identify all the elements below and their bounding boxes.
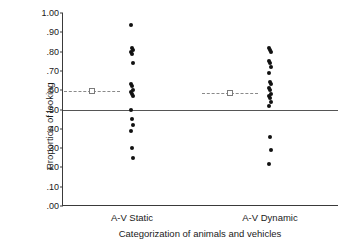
data-point [130, 117, 134, 121]
figure: Proportion of looking 1.00.90.80.70.60.5… [0, 0, 348, 251]
y-tick-label: .60 [46, 86, 59, 95]
data-point [130, 52, 134, 56]
data-point [131, 94, 135, 98]
y-tick-label: .00 [46, 202, 59, 211]
mean-square-icon [89, 88, 95, 94]
x-tick-label: A-V Static [111, 212, 153, 223]
data-point [130, 146, 134, 150]
y-tick-label: .10 [46, 182, 59, 191]
data-point [269, 65, 273, 69]
y-tick-mark [60, 51, 63, 52]
y-tick-label: .50 [46, 105, 59, 114]
y-tick-mark [60, 206, 63, 207]
y-tick-mark [60, 32, 63, 33]
data-point [268, 135, 272, 139]
data-point [131, 156, 135, 160]
y-tick-label: 1.00 [41, 9, 59, 18]
y-tick-label: .70 [46, 66, 59, 75]
y-tick-label: .90 [46, 28, 59, 37]
y-tick-mark [60, 128, 63, 129]
data-point [269, 148, 273, 152]
mean-marker [64, 87, 120, 95]
y-tick-label: .40 [46, 124, 59, 133]
y-tick-label: .20 [46, 163, 59, 172]
x-tick-label: A-V Dynamic [242, 212, 297, 223]
data-point [131, 61, 135, 65]
data-point [131, 123, 135, 127]
y-tick-mark [60, 90, 63, 91]
data-point [267, 162, 271, 166]
y-tick-mark [60, 148, 63, 149]
y-tick-mark [60, 186, 63, 187]
plot-area: 1.00.90.80.70.60.50.40.30.20.10.00A-V St… [62, 13, 338, 206]
data-point [269, 50, 273, 54]
data-point [129, 129, 133, 133]
reference-line-050 [63, 110, 338, 111]
y-tick-mark [60, 167, 63, 168]
data-point [129, 108, 133, 112]
y-tick-mark [60, 70, 63, 71]
y-tick-label: .30 [46, 144, 59, 153]
data-point [129, 23, 133, 27]
y-tick-mark [60, 109, 63, 110]
mean-square-icon [227, 90, 233, 96]
data-point [267, 71, 271, 75]
data-point [267, 104, 271, 108]
mean-marker [202, 89, 258, 97]
y-tick-label: .80 [46, 47, 59, 56]
y-tick-mark [60, 13, 63, 14]
x-axis-label: Categorization of animals and vehicles [62, 228, 338, 239]
